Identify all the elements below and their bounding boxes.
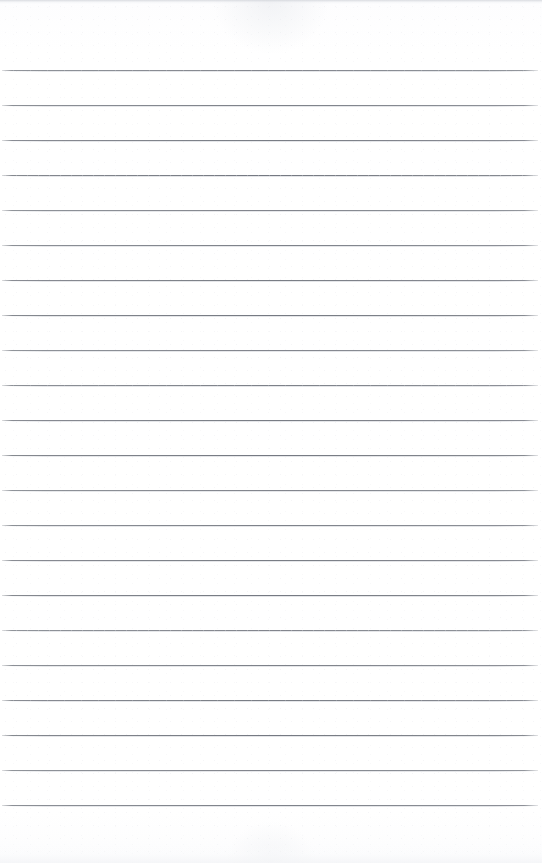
notebook-page	[0, 0, 542, 863]
ruled-line	[2, 245, 538, 246]
ruled-line	[2, 350, 538, 351]
ruled-line	[2, 105, 538, 106]
ruled-line	[2, 455, 538, 456]
ruled-line	[2, 770, 538, 771]
ruled-line	[2, 525, 538, 526]
ruled-line	[2, 420, 538, 421]
ruled-line	[2, 595, 538, 596]
ruled-line	[2, 385, 538, 386]
ruled-line	[2, 175, 538, 176]
ruled-line	[2, 560, 538, 561]
ruled-line	[2, 805, 538, 806]
ruled-line	[2, 70, 538, 71]
ruled-line	[2, 315, 538, 316]
ruled-line	[2, 665, 538, 666]
ruled-line	[2, 140, 538, 141]
scan-edge-bottom	[0, 843, 542, 863]
ruled-line	[2, 280, 538, 281]
ruled-line	[2, 490, 538, 491]
ruled-line	[2, 700, 538, 701]
ruled-lines-layer	[0, 0, 542, 863]
ruled-line	[2, 210, 538, 211]
ruled-line	[2, 735, 538, 736]
ruled-line	[2, 630, 538, 631]
